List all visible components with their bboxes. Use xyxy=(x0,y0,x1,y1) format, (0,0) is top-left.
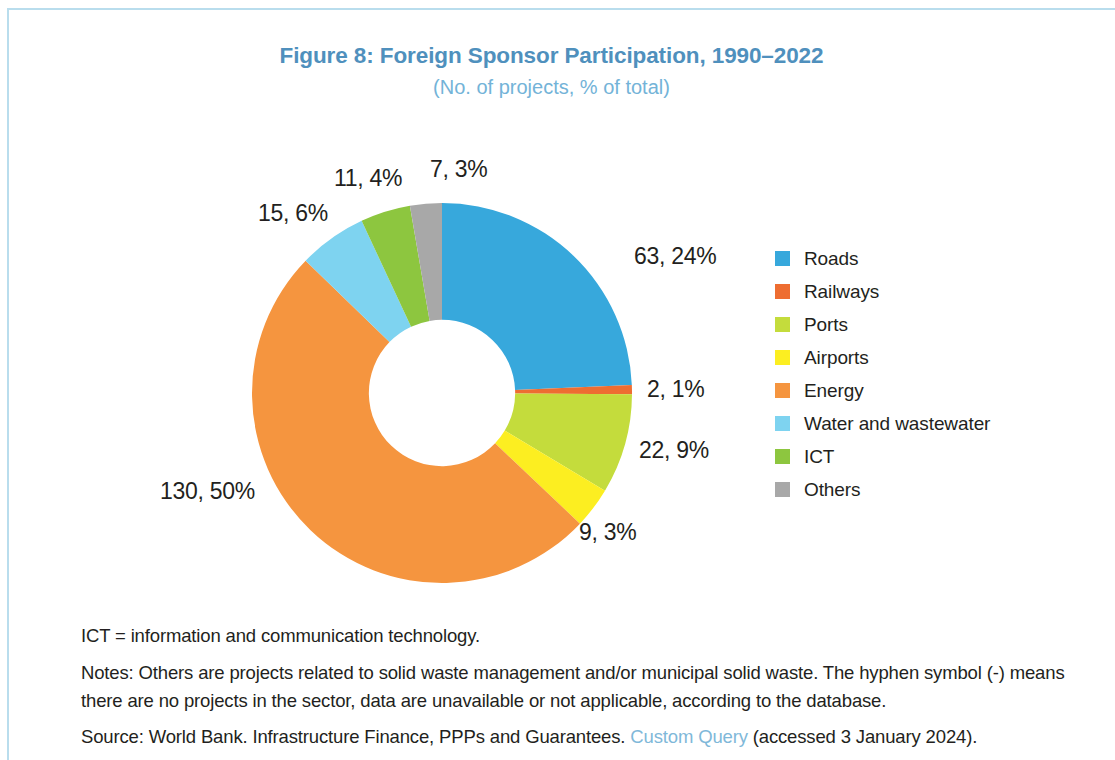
legend-swatch-icon xyxy=(775,284,790,299)
legend-item[interactable]: Energy xyxy=(775,374,990,407)
slice-label-airports: 9, 3% xyxy=(579,519,636,546)
legend-item[interactable]: ICT xyxy=(775,440,990,473)
legend-swatch-icon xyxy=(775,251,790,266)
source-prefix: Source: World Bank. Infrastructure Finan… xyxy=(81,726,630,747)
slice-label-others: 7, 3% xyxy=(430,156,487,183)
source-suffix: (accessed 3 January 2024). xyxy=(748,726,977,747)
footnote-notes: Notes: Others are projects related to so… xyxy=(81,659,1101,715)
donut-slice[interactable] xyxy=(442,203,632,390)
legend-swatch-icon xyxy=(775,383,790,398)
legend-item[interactable]: Airports xyxy=(775,341,990,374)
legend-item-label: Railways xyxy=(804,281,879,303)
legend-item-label: Water and wastewater xyxy=(804,413,990,435)
legend-swatch-icon xyxy=(775,317,790,332)
legend-item[interactable]: Ports xyxy=(775,308,990,341)
legend-item[interactable]: Others xyxy=(775,473,990,506)
chart-legend: RoadsRailwaysPortsAirportsEnergyWater an… xyxy=(775,242,990,506)
footnote-source: Source: World Bank. Infrastructure Finan… xyxy=(81,723,1101,751)
legend-item-label: Roads xyxy=(804,248,858,270)
slice-label-railways: 2, 1% xyxy=(647,376,704,403)
legend-swatch-icon xyxy=(775,482,790,497)
slice-label-water: 15, 6% xyxy=(258,200,328,227)
legend-item[interactable]: Railways xyxy=(775,275,990,308)
legend-item-label: Airports xyxy=(804,347,869,369)
legend-swatch-icon xyxy=(775,416,790,431)
footnotes: ICT = information and communication tech… xyxy=(81,622,1101,751)
slice-label-energy: 130, 50% xyxy=(160,478,255,505)
slice-label-ict: 11, 4% xyxy=(334,165,402,192)
slice-label-roads: 63, 24% xyxy=(634,243,716,270)
legend-swatch-icon xyxy=(775,449,790,464)
legend-item[interactable]: Roads xyxy=(775,242,990,275)
chart-plot-area: 63, 24% 2, 1% 22, 9% 9, 3% 130, 50% 15, … xyxy=(9,10,1115,610)
figure-frame: Figure 8: Foreign Sponsor Participation,… xyxy=(7,8,1115,760)
legend-swatch-icon xyxy=(775,350,790,365)
legend-item-label: Others xyxy=(804,479,860,501)
legend-item-label: ICT xyxy=(804,446,834,468)
legend-item-label: Ports xyxy=(804,314,848,336)
legend-item[interactable]: Water and wastewater xyxy=(775,407,990,440)
custom-query-link[interactable]: Custom Query xyxy=(630,726,747,747)
legend-item-label: Energy xyxy=(804,380,864,402)
footnote-abbreviation: ICT = information and communication tech… xyxy=(81,622,1101,650)
slice-label-ports: 22, 9% xyxy=(639,437,709,464)
